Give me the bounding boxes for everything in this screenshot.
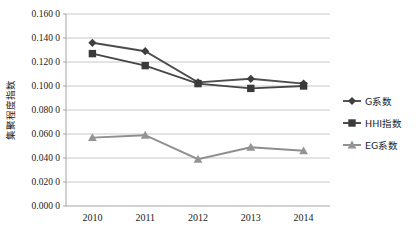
- y-tick-label: 0.020 0: [32, 177, 61, 187]
- y-tick-label: 0.120 0: [32, 57, 61, 67]
- legend-label: G系数: [365, 96, 392, 107]
- data-point-marker: [247, 85, 254, 92]
- data-point-marker: [247, 75, 255, 83]
- y-tick-label: 0.140 0: [32, 33, 61, 43]
- x-tick-label: 2011: [135, 212, 155, 223]
- data-point-marker: [141, 47, 149, 55]
- legend-item[interactable]: G系数: [343, 96, 392, 107]
- legend-marker-icon: [348, 119, 355, 126]
- x-tick-labels-group: 20102011201220132014: [82, 212, 313, 223]
- x-tick-label: 2012: [188, 212, 208, 223]
- chart-container: 0.000 00.020 00.040 00.060 00.080 00.100…: [0, 0, 416, 242]
- y-tick-label: 0.040 0: [32, 153, 61, 163]
- y-tick-label: 0.060 0: [32, 129, 61, 139]
- x-tick-label: 2014: [294, 212, 314, 223]
- y-tick-label: 0.080 0: [32, 105, 61, 115]
- data-point-marker: [194, 80, 201, 87]
- legend-marker-icon: [348, 97, 356, 105]
- legend-item[interactable]: EG系数: [343, 140, 398, 151]
- line-chart: 0.000 00.020 00.040 00.060 00.080 00.100…: [0, 0, 416, 242]
- data-point-marker: [142, 62, 149, 69]
- series-lines-group: [92, 43, 303, 159]
- series-line: [92, 43, 303, 84]
- legend-item[interactable]: HHI指数: [343, 118, 402, 129]
- data-point-marker: [88, 39, 96, 47]
- series-markers-group: [88, 39, 308, 163]
- x-tick-label: 2013: [241, 212, 261, 223]
- data-point-marker: [89, 50, 96, 57]
- legend-label: EG系数: [365, 140, 398, 151]
- data-point-marker: [300, 82, 307, 89]
- chart-legend: G系数HHI指数EG系数: [343, 96, 402, 151]
- y-tick-label: 0.160 0: [32, 9, 61, 19]
- y-tick-labels-group: 0.000 00.020 00.040 00.060 00.080 00.100…: [32, 9, 61, 211]
- y-tick-label: 0.100 0: [32, 81, 61, 91]
- y-tick-label: 0.000 0: [32, 201, 61, 211]
- legend-label: HHI指数: [365, 118, 402, 129]
- y-axis-title: 集聚程度指数: [5, 80, 16, 140]
- x-tick-label: 2010: [82, 212, 102, 223]
